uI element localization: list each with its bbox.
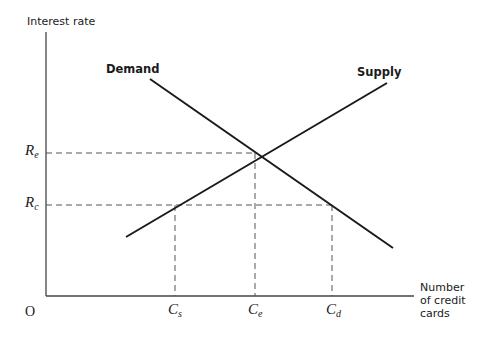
tick-cd-sub: d	[336, 308, 341, 319]
demand-curve	[150, 79, 393, 248]
x-axis-title: Number of credit cards	[420, 281, 466, 320]
tick-ce: Ce	[248, 303, 262, 320]
origin-label: O	[25, 305, 35, 318]
supply-label: Supply	[357, 66, 401, 79]
demand-label: Demand	[106, 63, 160, 76]
tick-ce-sub: e	[258, 308, 262, 319]
supply-curve	[126, 83, 387, 237]
tick-re-main: R	[25, 142, 34, 158]
tick-cs: Cs	[168, 303, 182, 320]
tick-re-sub: e	[34, 149, 38, 160]
tick-rc-main: R	[25, 194, 34, 210]
x-axis-title-line1: Number	[420, 281, 466, 294]
tick-rc: Rc	[25, 196, 39, 213]
x-axis-title-line2: of credit	[420, 294, 466, 307]
y-axis-title: Interest rate	[27, 15, 95, 28]
tick-re: Re	[25, 144, 39, 161]
tick-cs-sub: s	[178, 308, 182, 319]
supply-demand-diagram	[0, 0, 485, 337]
x-axis-title-line3: cards	[420, 307, 466, 320]
tick-rc-sub: c	[34, 201, 38, 212]
tick-cd-main: C	[326, 301, 336, 317]
tick-ce-main: C	[248, 301, 258, 317]
tick-cs-main: C	[168, 301, 178, 317]
tick-cd: Cd	[326, 303, 341, 320]
